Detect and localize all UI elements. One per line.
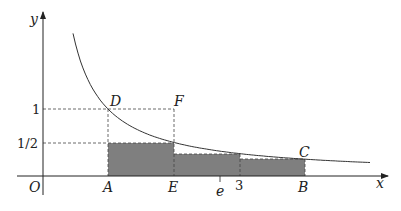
x-tick-3-label: 3 bbox=[235, 178, 243, 193]
rectangle-3-4 bbox=[240, 159, 305, 176]
x-axis-label: x bbox=[376, 175, 384, 191]
point-C-label: C bbox=[299, 144, 310, 160]
point-A-label: A bbox=[101, 179, 113, 195]
point-F-label: F bbox=[173, 93, 185, 109]
origin-label: O bbox=[29, 179, 41, 195]
point-D-label: D bbox=[109, 93, 121, 109]
y-tick-1-label: 1 bbox=[32, 102, 40, 117]
y-axis-label: y bbox=[29, 11, 39, 27]
point-E-label: E bbox=[167, 179, 178, 195]
lower-rectangles bbox=[108, 143, 305, 176]
point-B-label: B bbox=[297, 179, 308, 195]
rectangle-2-3 bbox=[174, 154, 240, 176]
y-tick-half-label: 1/2 bbox=[17, 136, 38, 151]
e-tick-label: e bbox=[216, 183, 224, 199]
diagram-canvas: y x O 1 1/2 A E e 3 B D F C bbox=[0, 0, 401, 211]
rectangle-1-2 bbox=[108, 143, 174, 176]
